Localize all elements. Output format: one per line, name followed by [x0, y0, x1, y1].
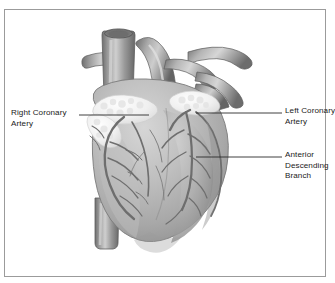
label-right-coronary-artery: Right Coronary Artery [11, 108, 67, 129]
label-anterior-descending-branch: Anterior Descending Branch [285, 150, 329, 182]
label-left-coronary-artery: Left Coronary Artery [285, 106, 335, 127]
superior-vena-cava-lumen-inner [109, 31, 129, 37]
inferior-vena-cava-highlight [100, 203, 101, 245]
